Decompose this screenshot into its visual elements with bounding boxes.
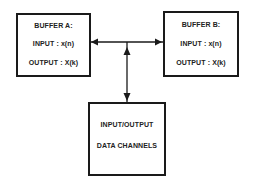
buffer-a-title: BUFFER A: [18, 22, 89, 29]
buffer-b-title: BUFFER B: [165, 21, 237, 28]
buffer-b-input: INPUT : x(n) [165, 40, 237, 47]
buffer-a-output: OUTPUT : X(k) [18, 59, 89, 66]
arrow-right-icon [155, 39, 162, 46]
buffer-b-box: BUFFER B: INPUT : x(n) OUTPUT : X(k) [163, 11, 239, 77]
arrow-up-icon [124, 47, 131, 55]
arrow-left-icon [91, 39, 98, 46]
io-channels-box: INPUT/OUTPUT DATA CHANNELS [88, 102, 166, 176]
io-channels-line1: INPUT/OUTPUT [90, 121, 164, 128]
buffer-b-output: OUTPUT : X(k) [165, 59, 237, 66]
buffer-a-box: BUFFER A: INPUT : x(n) OUTPUT : X(k) [16, 13, 91, 77]
arrow-down-icon [124, 93, 131, 101]
buffer-a-input: INPUT : x(n) [18, 40, 89, 47]
io-channels-line2: DATA CHANNELS [90, 142, 164, 149]
